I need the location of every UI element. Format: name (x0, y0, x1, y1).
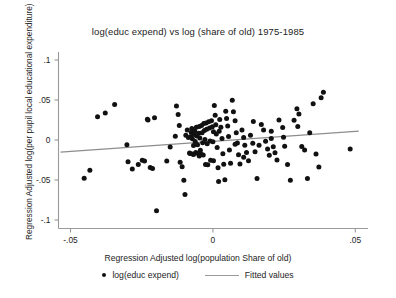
scatter-point (267, 153, 272, 158)
scatter-point (241, 155, 246, 160)
scatter-point (321, 90, 326, 95)
scatter-point (181, 178, 186, 183)
x-axis-label: Regression Adjusted log(population Share… (0, 253, 396, 263)
scatter-point (265, 146, 270, 151)
scatter-point (271, 144, 276, 149)
scatter-point (224, 116, 229, 121)
scatter-point (205, 162, 210, 167)
legend-label-points: log(educ expend) (112, 270, 178, 280)
scatter-point (253, 149, 258, 154)
scatter-point (263, 139, 268, 144)
scatter-point (150, 166, 155, 171)
scatter-point (176, 112, 181, 117)
scatter-point (212, 103, 217, 108)
scatter-point (217, 117, 222, 122)
scatter-point (95, 114, 100, 119)
scatter-point (259, 122, 264, 127)
scatter-point (257, 143, 262, 148)
scatter-point (226, 134, 231, 139)
y-tick-label: -.1 (21, 215, 51, 225)
legend-line-marker-icon (205, 275, 239, 276)
scatter-point (302, 148, 307, 153)
scatter-point (82, 176, 87, 181)
legend-entry-fitted: Fitted values (205, 270, 294, 280)
scatter-point (180, 164, 185, 169)
scatter-point (220, 151, 225, 156)
scatter-point (316, 165, 321, 170)
scatter-point (124, 142, 129, 147)
x-tick-label: -.05 (51, 235, 91, 245)
scatter-point (136, 162, 141, 167)
scatter-point (217, 129, 222, 134)
scatter-point (209, 118, 214, 123)
scatter-point (182, 192, 187, 197)
scatter-point (230, 98, 235, 103)
scatter-point (215, 145, 220, 150)
scatter-point (216, 165, 221, 170)
scatter-point (145, 118, 150, 123)
legend-entry-points: log(educ expend) (102, 270, 178, 280)
scatter-point (142, 159, 147, 164)
scatter-point (276, 118, 281, 123)
scatter-point (255, 176, 260, 181)
scatter-point (296, 112, 301, 117)
y-tick-label: 0 (21, 135, 51, 145)
scatter-point (311, 101, 316, 106)
scatter-point (237, 162, 242, 167)
scatter-point (272, 150, 277, 155)
data-points (82, 90, 353, 214)
scatter-point (250, 141, 255, 146)
scatter-point (231, 109, 236, 114)
scatter-point (244, 150, 249, 155)
scatter-point (261, 128, 266, 133)
scatter-point (220, 136, 225, 141)
legend-dot-marker-icon (102, 273, 106, 277)
scatter-point (225, 124, 230, 129)
x-tick-label: .05 (335, 235, 375, 245)
scatter-point (274, 158, 279, 163)
scatter-point (348, 146, 353, 151)
x-tick-label: 0 (193, 235, 233, 245)
scatter-point (288, 178, 293, 183)
scatter-point (234, 130, 239, 135)
scatter-point (174, 104, 179, 109)
scatter-point (173, 134, 178, 139)
scatter-point (191, 143, 196, 148)
scatter-point (197, 154, 202, 159)
scatter-point (213, 113, 218, 118)
scatter-point (305, 176, 310, 181)
scatter-point (280, 125, 285, 130)
scatter-point (168, 145, 173, 150)
y-tick-label: -.05 (21, 175, 51, 185)
legend-label-fitted: Fitted values (245, 270, 294, 280)
scatter-point (177, 123, 182, 128)
scatter-point (227, 148, 232, 153)
scatter-point (221, 162, 226, 167)
scatter-point (282, 144, 287, 149)
scatter-point (164, 158, 169, 163)
scatter-point (228, 161, 233, 166)
scatter-point (294, 106, 299, 111)
scatter-point (314, 152, 319, 157)
scatter-point (130, 167, 135, 172)
scatter-point (236, 152, 241, 157)
scatter-point (197, 136, 202, 141)
y-tick-label: .1 (21, 55, 51, 65)
chart-legend: log(educ expend) Fitted values (0, 270, 396, 280)
scatter-point (87, 168, 92, 173)
scatter-point (248, 133, 253, 138)
scatter-point (103, 110, 108, 115)
scatter-point (223, 109, 228, 114)
y-tick-label: .05 (21, 95, 51, 105)
scatter-point (152, 115, 157, 120)
scatter-point (216, 179, 221, 184)
scatter-point (154, 208, 159, 213)
scatter-point (233, 118, 238, 123)
scatter-point (269, 129, 274, 134)
scatter-point (242, 143, 247, 148)
scatter-point (241, 135, 246, 140)
scatter-point (213, 122, 218, 127)
scatter-point (126, 159, 131, 164)
scatter-point (285, 162, 290, 167)
scatter-point (222, 177, 227, 182)
